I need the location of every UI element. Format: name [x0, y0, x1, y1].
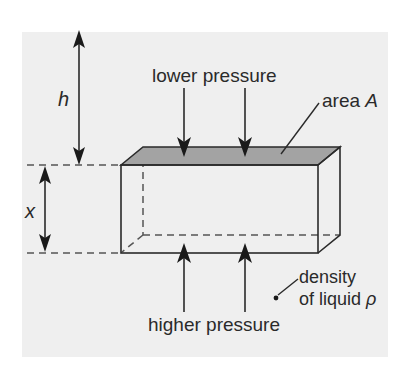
higher-pressure-label: higher pressure: [148, 314, 280, 335]
pressure-diagram: h x lower pre: [0, 0, 409, 376]
density-label-line2: of liquid ρ: [299, 289, 376, 309]
liquid-point-marker: [274, 296, 279, 301]
density-leader-line: [278, 279, 298, 295]
depth-h-arrow: [73, 30, 85, 165]
area-a-label: area A: [322, 90, 378, 111]
height-x-arrow: [39, 166, 51, 252]
right-face: [318, 147, 340, 253]
submerged-box: [121, 147, 340, 253]
depth-h-label: h: [58, 88, 69, 110]
diagram-canvas: h x lower pre: [0, 0, 409, 376]
height-x-label: x: [24, 200, 36, 222]
front-face: [121, 165, 318, 253]
density-label-line1: density: [299, 267, 356, 287]
top-face-area-a: [121, 147, 340, 165]
lower-pressure-label: lower pressure: [152, 65, 277, 86]
